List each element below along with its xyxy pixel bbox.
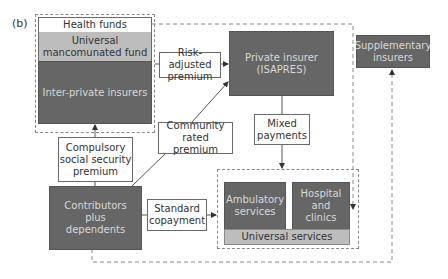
community-rated-premium-label: Community rated premium (158, 122, 233, 154)
universal-mancomunated-fund: Universal mancomunated fund (38, 32, 152, 62)
panel-label: (b) (12, 17, 28, 30)
mixed-payments-label: Mixed payments (254, 114, 310, 145)
standard-copayment-label: Standard copayment (147, 199, 207, 231)
risk-adjusted-premium-label: Risk-adjusted premium (159, 52, 221, 78)
supplementary-insurers: Supplementary insurers (356, 35, 430, 68)
contributors-plus-dependents: Contributors plus dependents (49, 186, 142, 250)
compulsory-social-security-premium-label: Compulsory social security premium (58, 137, 133, 182)
universal-services: Universal services (224, 229, 350, 245)
health-funds-header: Health funds (38, 17, 152, 33)
inter-private-insurers: Inter-private insurers (38, 61, 152, 124)
private-insurer-isapres: Private insurer (ISAPRES) (229, 31, 334, 96)
hospital-and-clinics: Hospital and clinics (292, 182, 350, 230)
ambulatory-services: Ambulatory services (224, 182, 286, 230)
